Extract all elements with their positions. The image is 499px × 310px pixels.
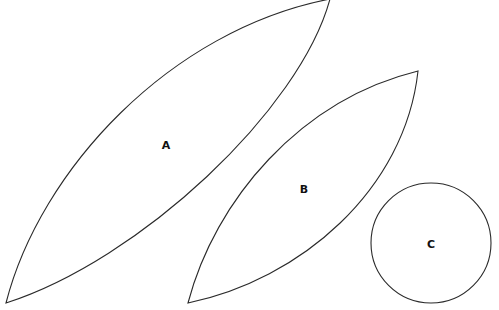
diagram-canvas [0, 0, 499, 310]
label-a: A [162, 140, 171, 151]
label-c: C [427, 239, 435, 250]
label-b: B [300, 184, 308, 195]
